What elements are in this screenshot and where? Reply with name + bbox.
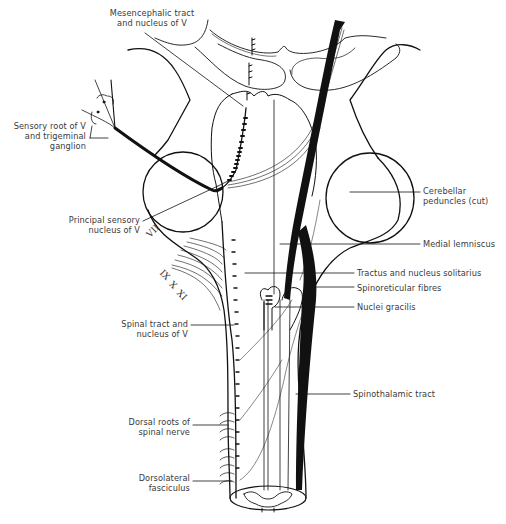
label-spinoreticular-fibres: Spinoreticular fibres (357, 283, 441, 293)
right-outline (298, 158, 400, 498)
label-line: ganglion (6, 141, 86, 151)
label-dorsal-roots: Dorsal roots of spinal nerve (112, 417, 190, 437)
label-line: Spinal tract and (112, 319, 188, 329)
label-medial-lemniscus: Medial lemniscus (423, 239, 495, 249)
label-line: spinal nerve (112, 427, 190, 437)
left-peduncle (143, 152, 223, 232)
label-line: Dorsolateral (112, 473, 190, 483)
trigeminal-nucleus-chain (222, 108, 247, 188)
brainstem-diagram: Mesencephalic tract and nucleus of V Sen… (0, 0, 506, 524)
label-tractus-solitarius: Tractus and nucleus solitarius (357, 268, 481, 278)
midbrain-outline (155, 20, 400, 90)
right-peduncle (326, 153, 414, 243)
diagram-drawing (0, 0, 506, 524)
label-dorsolateral-fasciculus: Dorsolateral fasciculus (112, 473, 190, 493)
label-line: nucleus of V (112, 329, 188, 339)
spinothalamic-tract (284, 20, 345, 490)
nucleus-gracilis (260, 287, 302, 330)
label-mesencephalic-tract: Mesencephalic tract and nucleus of V (106, 8, 198, 28)
label-line: Cerebellar (423, 186, 488, 196)
pointer-lines (90, 33, 420, 481)
label-sensory-root: Sensory root of V and trigeminal ganglio… (6, 121, 86, 151)
label-cerebellar-peduncles: Cerebellar peduncles (cut) (423, 186, 488, 206)
label-line: Sensory root of V (6, 121, 86, 131)
trigeminal-ganglion (82, 80, 222, 191)
label-principal-sensory-nucleus: Principal sensory nucleus of V (56, 215, 140, 235)
label-line: and nucleus of V (106, 18, 198, 28)
label-line: Principal sensory (56, 215, 140, 225)
label-line: peduncles (cut) (423, 196, 488, 206)
mesencephalic-nucleus (247, 38, 255, 100)
label-spinal-tract-v: Spinal tract and nucleus of V (112, 319, 188, 339)
label-line: Dorsal roots of (112, 417, 190, 427)
label-line: fasciculus (112, 483, 190, 493)
label-line: and trigeminal (6, 131, 86, 141)
label-line: nucleus of V (56, 225, 140, 235)
dorsal-roots (220, 413, 234, 484)
label-nuclei-gracilis: Nuclei gracilis (357, 302, 416, 312)
label-line: Mesencephalic tract (106, 8, 198, 18)
label-spinothalamic-tract: Spinothalamic tract (353, 389, 435, 399)
